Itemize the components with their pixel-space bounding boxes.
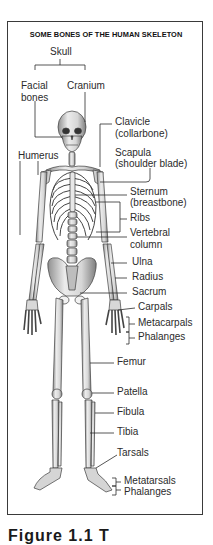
- label-patella: Patella: [117, 386, 148, 398]
- label-radius: Radius: [132, 271, 163, 283]
- skull: [58, 111, 86, 152]
- label-clavicle-1: Clavicle: [115, 116, 150, 128]
- label-metatarsals: Metatarsals: [124, 475, 176, 487]
- label-sacrum: Sacrum: [132, 286, 166, 298]
- hands: [24, 300, 124, 335]
- label-sternum-2: (breastbone): [130, 197, 187, 209]
- label-ulna: Ulna: [132, 256, 153, 268]
- label-sternum-1: Sternum: [130, 186, 168, 198]
- label-scapula-1: Scapula: [115, 147, 151, 159]
- label-fibula: Fibula: [117, 406, 144, 418]
- vertebral-column: [67, 212, 77, 263]
- label-vertebral-2: column: [130, 239, 162, 251]
- label-metacarpals: Metacarpals: [138, 317, 192, 329]
- label-femur: Femur: [117, 356, 146, 368]
- label-humerus: Humerus: [18, 150, 59, 162]
- figure-caption: Figure 1.1 T: [8, 527, 110, 545]
- label-scapula-2: (shoulder blade): [115, 158, 187, 170]
- label-facial-bones-1: Facial: [21, 80, 48, 92]
- label-facial-bones-2: bones: [21, 92, 48, 104]
- label-clavicle-2: (collarbone): [115, 128, 168, 140]
- label-cranium: Cranium: [67, 80, 105, 92]
- label-skull: Skull: [50, 46, 72, 58]
- feet: [34, 468, 112, 492]
- label-tibia: Tibia: [117, 426, 138, 438]
- label-carpals: Carpals: [138, 301, 172, 313]
- label-ribs: Ribs: [130, 212, 150, 224]
- label-tarsals: Tarsals: [117, 447, 149, 459]
- label-phalanges-hand: Phalanges: [138, 331, 185, 343]
- label-phalanges-foot: Phalanges: [124, 486, 171, 498]
- label-vertebral-1: Vertebral: [130, 227, 170, 239]
